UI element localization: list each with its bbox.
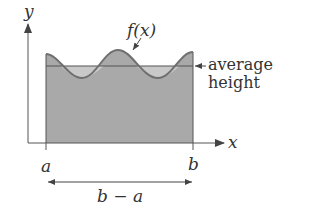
x-axis-label: x xyxy=(228,132,238,152)
function-label: f(x) xyxy=(125,20,156,40)
average-value-diagram: y x f(x) average height a b b − a xyxy=(0,0,315,220)
rect-lower-fill xyxy=(46,80,193,143)
width-label: b − a xyxy=(97,186,143,206)
left-bound-label: a xyxy=(41,156,51,176)
y-axis-label: y xyxy=(23,1,34,21)
average-label: average xyxy=(208,55,273,74)
dip-fill xyxy=(46,50,193,80)
right-bound-label: b xyxy=(188,154,199,174)
height-label: height xyxy=(208,73,260,92)
